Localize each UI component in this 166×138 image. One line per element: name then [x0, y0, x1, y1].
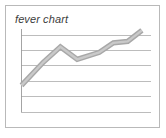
- plot-area: [6, 6, 161, 129]
- gridlines-group: [21, 36, 151, 113]
- fever-line-highlight: [22, 30, 142, 85]
- fever-line-series: [22, 30, 142, 85]
- fever-chart-svg: [6, 6, 161, 129]
- fever-chart-card: fever chart: [5, 5, 160, 128]
